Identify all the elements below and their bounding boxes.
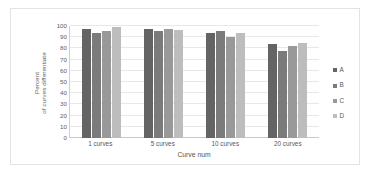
plot-area: 1009080706050403020100 bbox=[69, 26, 319, 138]
x-axis-tick-label: 1 curves bbox=[69, 140, 132, 147]
bar-d-2 bbox=[236, 33, 245, 138]
y-axis-tick-label: 100 bbox=[57, 22, 67, 29]
bar-c-3 bbox=[288, 46, 297, 138]
y-axis-tick-label: 70 bbox=[60, 55, 67, 62]
y-axis-tick-label: 20 bbox=[60, 111, 67, 118]
bar-group bbox=[132, 26, 194, 138]
x-axis-tick-label: 20 curves bbox=[257, 140, 320, 147]
bar-c-0 bbox=[102, 31, 111, 138]
y-axis-tick-label: 0 bbox=[64, 134, 67, 141]
bar-group bbox=[195, 26, 257, 138]
y-axis-tick-label: 80 bbox=[60, 44, 67, 51]
legend-swatch-icon bbox=[333, 84, 337, 88]
x-axis-tick-label: 10 curves bbox=[194, 140, 257, 147]
legend-swatch-icon bbox=[333, 114, 337, 118]
y-axis-title-line-1: Percent bbox=[33, 72, 40, 94]
legend-item-c[interactable]: C bbox=[333, 98, 344, 104]
x-axis-title: Curve num bbox=[69, 151, 319, 158]
x-axis-tick-labels: 1 curves5 curves10 curves20 curves bbox=[69, 140, 319, 147]
x-axis-tick-label: 5 curves bbox=[132, 140, 195, 147]
bar-b-2 bbox=[216, 31, 225, 138]
bar-a-1 bbox=[144, 29, 153, 138]
legend-label: D bbox=[340, 113, 345, 119]
y-axis-tick-label: 50 bbox=[60, 78, 67, 85]
bar-b-3 bbox=[278, 51, 287, 138]
legend-swatch-icon bbox=[333, 99, 337, 103]
chart-frame: Percent of curves differentiate 10090807… bbox=[10, 8, 360, 165]
y-axis-tick-label: 60 bbox=[60, 66, 67, 73]
legend-item-b[interactable]: B bbox=[333, 82, 344, 88]
legend-swatch-icon bbox=[333, 68, 337, 72]
bar-group bbox=[70, 26, 132, 138]
bar-group bbox=[257, 26, 319, 138]
bar-c-2 bbox=[226, 37, 235, 138]
legend-label: B bbox=[340, 82, 344, 88]
legend-label: A bbox=[340, 67, 344, 73]
plot-wrapper: 1009080706050403020100 bbox=[69, 26, 319, 138]
y-axis-tick-label: 40 bbox=[60, 89, 67, 96]
legend-item-d[interactable]: D bbox=[333, 113, 344, 119]
bar-d-3 bbox=[298, 43, 307, 138]
bar-d-0 bbox=[112, 27, 121, 138]
legend-item-a[interactable]: A bbox=[333, 67, 344, 73]
legend-label: C bbox=[340, 98, 345, 104]
y-axis-tick-label: 90 bbox=[60, 33, 67, 40]
bar-a-2 bbox=[206, 33, 215, 138]
bar-d-1 bbox=[174, 30, 183, 138]
y-axis-tick-label: 10 bbox=[60, 122, 67, 129]
y-axis-title-line-2: of curves differentiate bbox=[40, 52, 47, 113]
bar-groups bbox=[70, 26, 319, 138]
bar-a-3 bbox=[268, 44, 277, 138]
bar-b-0 bbox=[92, 33, 101, 138]
bar-a-0 bbox=[82, 29, 91, 138]
bar-b-1 bbox=[154, 31, 163, 138]
y-axis-title: Percent of curves differentiate bbox=[27, 33, 53, 133]
y-axis-tick-label: 30 bbox=[60, 100, 67, 107]
bar-c-1 bbox=[164, 29, 173, 138]
chart-legend: ABCD bbox=[333, 67, 344, 120]
